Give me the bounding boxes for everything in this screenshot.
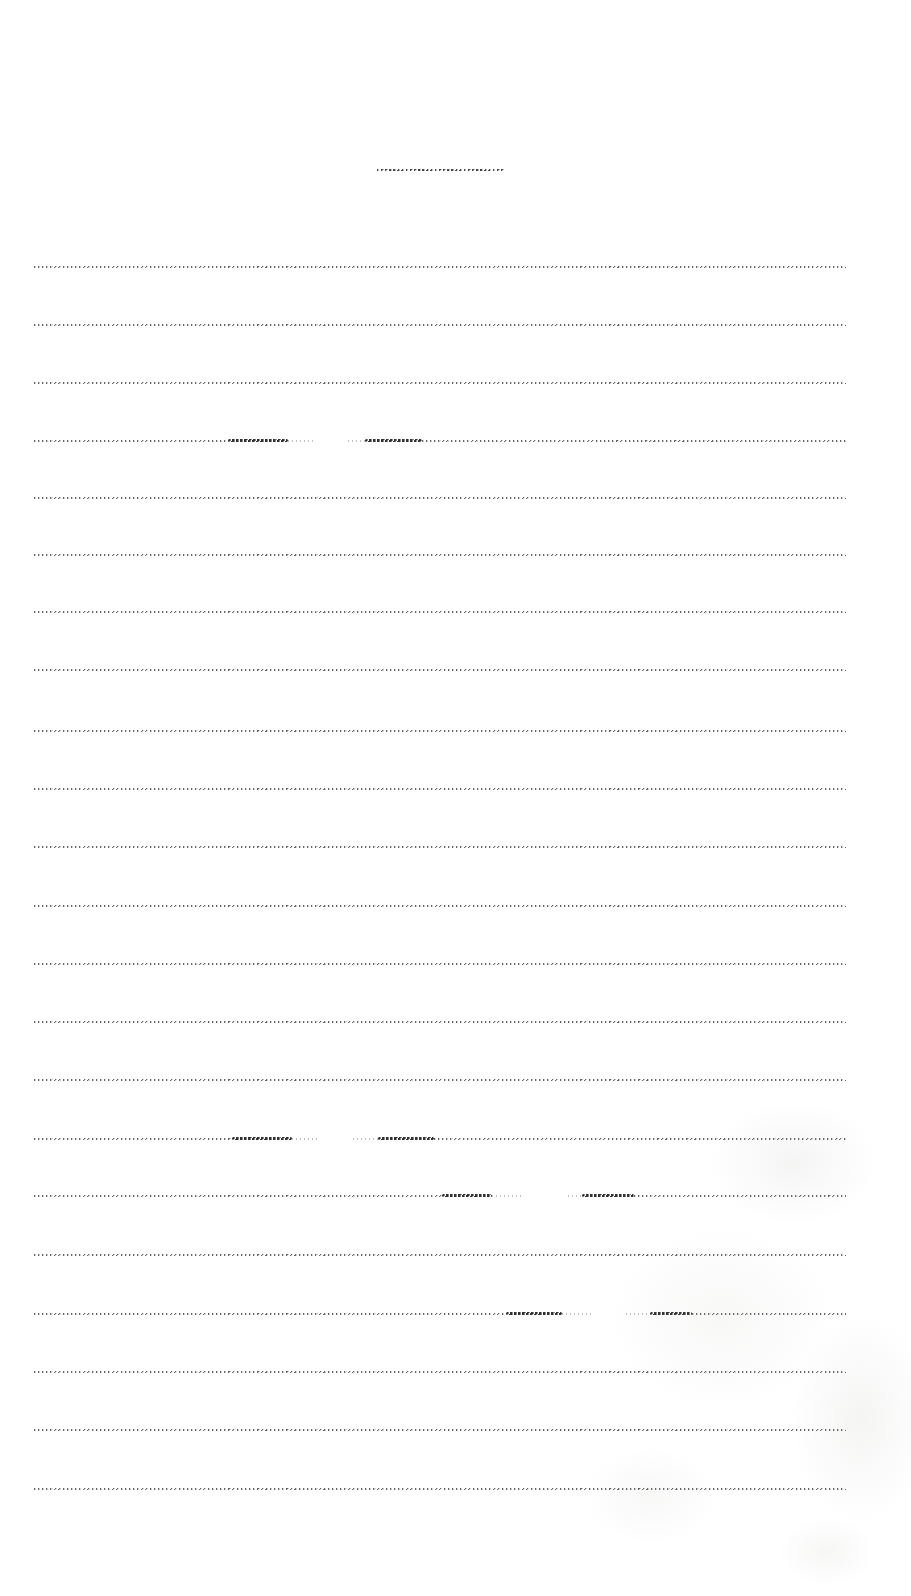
ruled-line-segment	[348, 440, 365, 442]
ruled-line-segment	[582, 1194, 634, 1197]
ruled-line	[34, 382, 846, 384]
ruled-line-segment	[634, 1195, 846, 1197]
ruled-line	[34, 1488, 846, 1490]
ruled-line	[34, 963, 846, 965]
scanned-blank-lined-page	[0, 0, 911, 1596]
ruled-line-segment	[228, 439, 288, 442]
ruled-line-segment	[34, 1138, 232, 1140]
ruled-line-segment	[353, 1138, 378, 1140]
ruled-line-segment	[365, 439, 422, 442]
ruled-line	[34, 1079, 846, 1081]
ruled-line	[34, 554, 846, 556]
ruled-line	[34, 846, 846, 848]
title-blank-rule	[377, 169, 504, 171]
ruled-line-segment	[626, 1313, 650, 1315]
ruled-line	[34, 730, 846, 732]
ruled-line	[34, 1313, 846, 1315]
ruled-line	[34, 611, 846, 613]
ruled-line	[34, 1254, 846, 1256]
ruled-line-segment	[34, 440, 228, 442]
ruled-line	[34, 1371, 846, 1373]
ruled-line-segment	[422, 440, 846, 442]
ruled-line-segment	[492, 1195, 524, 1197]
ruled-line	[34, 905, 846, 907]
scan-smudge-artifacts	[491, 1040, 911, 1596]
ruled-line-segment	[232, 1137, 292, 1140]
ruled-line	[34, 266, 846, 268]
ruled-line-segment	[442, 1194, 492, 1197]
ruled-line	[34, 497, 846, 499]
ruled-line-segment	[34, 1195, 442, 1197]
ruled-line-segment	[692, 1313, 846, 1315]
ruled-line-segment	[378, 1137, 434, 1140]
ruled-line-segment	[562, 1313, 592, 1315]
ruled-line	[34, 440, 846, 442]
ruled-line-segment	[568, 1195, 582, 1197]
ruled-line	[34, 324, 846, 326]
ruled-line	[34, 669, 846, 671]
ruled-line-segment	[506, 1312, 562, 1315]
ruled-line-segment	[650, 1312, 692, 1315]
ruled-line	[34, 1138, 846, 1140]
ruled-line-segment	[292, 1138, 320, 1140]
ruled-line-segment	[288, 440, 315, 442]
ruled-line	[34, 1021, 846, 1023]
ruled-line-segment	[434, 1138, 846, 1140]
ruled-line	[34, 1429, 846, 1431]
ruled-line-segment	[34, 1313, 506, 1315]
ruled-line	[34, 788, 846, 790]
ruled-line	[34, 1195, 846, 1197]
